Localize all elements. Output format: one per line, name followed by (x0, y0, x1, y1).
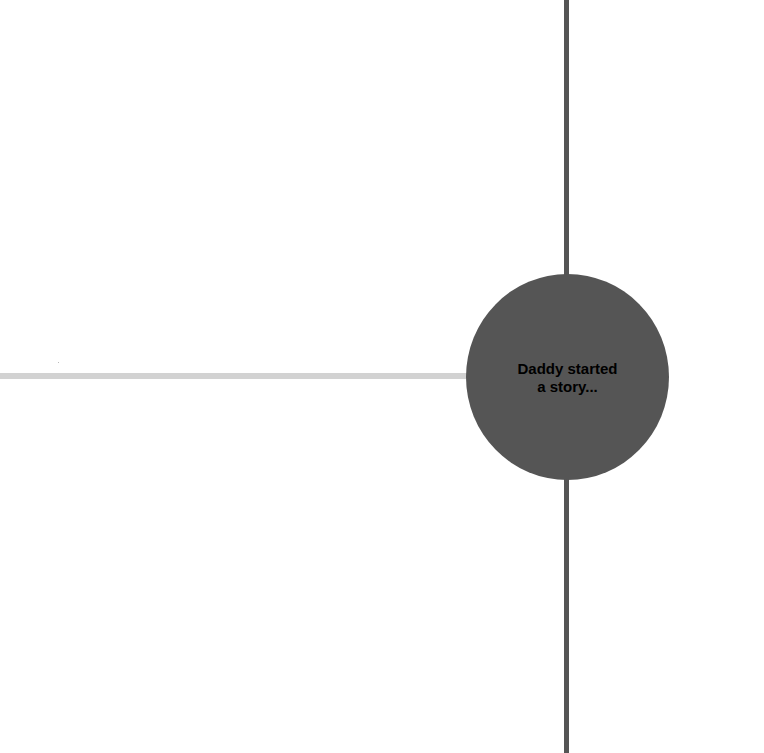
story-node-label: Daddy started a story... (498, 360, 638, 396)
story-node-label-line1: Daddy started (517, 360, 617, 377)
story-node-label-line2: a story... (537, 378, 598, 395)
story-node[interactable]: Daddy started a story... (466, 274, 669, 480)
horizontal-connector-line (0, 373, 480, 379)
diagram-canvas: Daddy started a story... (0, 0, 764, 753)
stray-dot (58, 362, 59, 363)
